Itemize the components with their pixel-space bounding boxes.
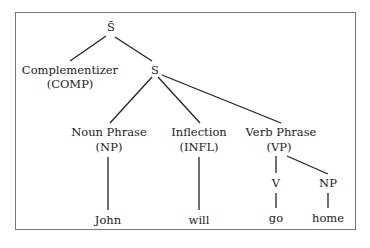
node-np-label: Noun Phrase xyxy=(71,126,147,139)
edge-s-np xyxy=(110,77,152,123)
edge-sbar-comp xyxy=(70,36,106,61)
node-vp-label: Verb Phrase xyxy=(246,126,317,139)
edge-s-infl xyxy=(158,77,200,123)
node-vp-abbr: (VP) xyxy=(266,141,291,154)
node-s: S xyxy=(151,64,159,77)
node-comp-abbr: (COMP) xyxy=(47,78,94,91)
node-infl-label: Inflection xyxy=(171,126,227,139)
node-v: V xyxy=(272,177,280,190)
edge-s-vp xyxy=(162,75,281,123)
leaf-go: go xyxy=(269,212,283,225)
node-infl-abbr: (INFL) xyxy=(179,141,218,154)
node-comp-label: Complementizer xyxy=(22,64,118,77)
edge-vp-np2 xyxy=(287,156,328,174)
leaf-will: will xyxy=(189,214,210,227)
leaf-home: home xyxy=(312,212,344,225)
edge-sbar-s xyxy=(115,37,152,61)
leaf-john: John xyxy=(95,214,121,227)
node-np2: NP xyxy=(319,177,337,190)
node-np-abbr: (NP) xyxy=(96,141,123,154)
node-sbar: S̄ xyxy=(107,21,115,34)
